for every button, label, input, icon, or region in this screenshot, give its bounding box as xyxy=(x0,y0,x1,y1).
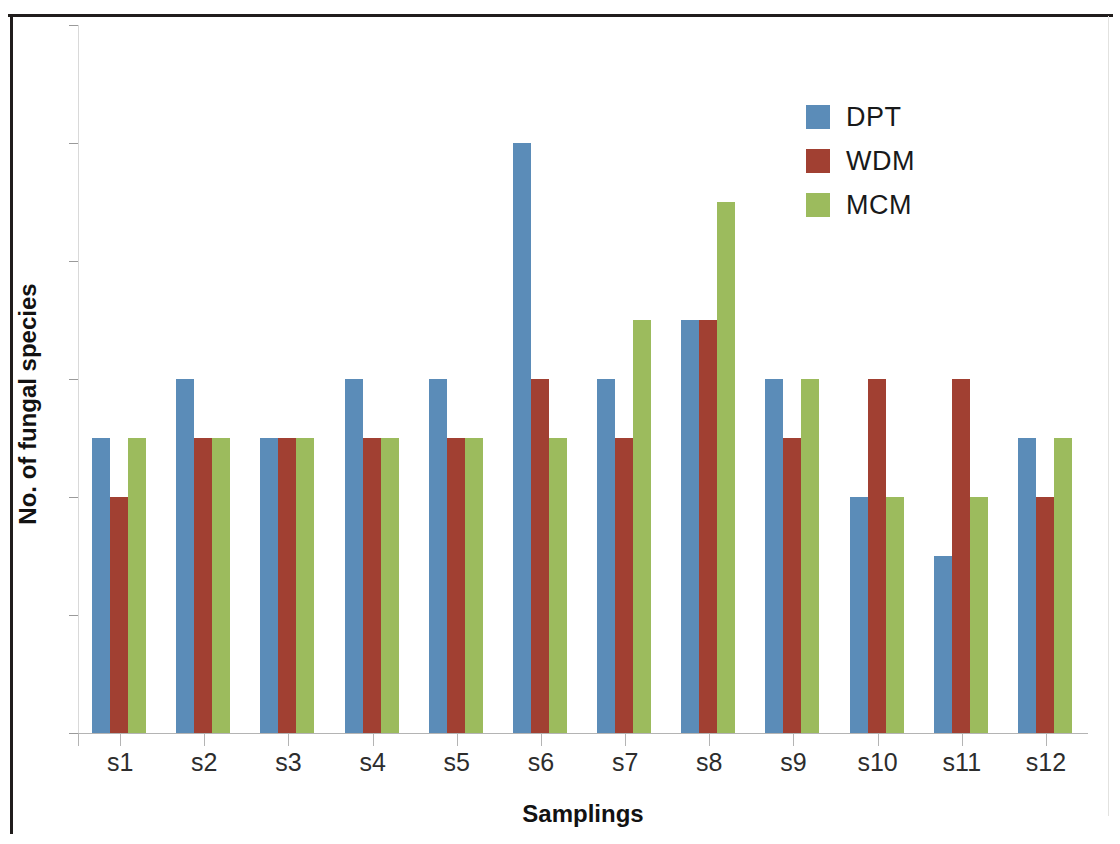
bar-wdm-s9[interactable] xyxy=(783,438,801,733)
y-axis-tick xyxy=(69,25,78,26)
x-axis-tick-labels: s1s2s3s4s5s6s7s8s9s10s11s12 xyxy=(78,748,1088,777)
bar-group xyxy=(246,25,330,733)
bar-group-inner xyxy=(681,25,737,733)
bar-dpt-s7[interactable] xyxy=(597,379,615,733)
x-axis-line xyxy=(78,733,1088,734)
y-axis-tick xyxy=(69,733,78,734)
bar-dpt-s12[interactable] xyxy=(1018,438,1036,733)
legend-swatch-icon xyxy=(806,149,830,173)
bar-dpt-s2[interactable] xyxy=(176,379,194,733)
page-frame-left-border xyxy=(10,14,13,834)
bar-dpt-s4[interactable] xyxy=(345,379,363,733)
bar-mcm-s5[interactable] xyxy=(465,438,483,733)
page-frame-top-border xyxy=(8,14,1113,17)
x-axis-tick-label: s8 xyxy=(667,748,751,777)
bar-mcm-s7[interactable] xyxy=(633,320,651,733)
x-axis-title: Samplings xyxy=(78,800,1088,828)
legend-label: WDM xyxy=(846,146,915,177)
bar-mcm-s4[interactable] xyxy=(381,438,399,733)
bar-chart-figure: No. of fungal species 121086420 s1s2s3s4… xyxy=(0,0,1120,844)
bar-group-inner xyxy=(429,25,485,733)
bar-dpt-s3[interactable] xyxy=(260,438,278,733)
bar-groups xyxy=(78,25,1088,733)
bar-wdm-s8[interactable] xyxy=(699,320,717,733)
bar-wdm-s3[interactable] xyxy=(278,438,296,733)
x-axis-tick xyxy=(373,733,374,746)
x-axis-tick-label: s9 xyxy=(751,748,835,777)
bar-group-inner xyxy=(1018,25,1074,733)
bar-group xyxy=(78,25,162,733)
bar-group-inner xyxy=(176,25,232,733)
chart-legend: DPTWDMMCM xyxy=(806,95,915,227)
x-axis-tick xyxy=(878,733,879,746)
y-axis-title: No. of fungal species xyxy=(14,144,42,664)
legend-item-dpt[interactable]: DPT xyxy=(806,95,915,139)
bar-mcm-s2[interactable] xyxy=(212,438,230,733)
page-frame-right-border xyxy=(1108,16,1109,816)
bar-group xyxy=(331,25,415,733)
y-axis-tick xyxy=(69,143,78,144)
bar-mcm-s6[interactable] xyxy=(549,438,567,733)
x-axis-tick xyxy=(78,733,79,746)
bar-wdm-s4[interactable] xyxy=(363,438,381,733)
bar-group xyxy=(415,25,499,733)
x-axis-tick xyxy=(709,733,710,746)
bar-group-inner xyxy=(513,25,569,733)
x-axis-tick-label: s12 xyxy=(1004,748,1088,777)
x-axis-tick xyxy=(204,733,205,746)
bar-wdm-s1[interactable] xyxy=(110,497,128,733)
bar-wdm-s5[interactable] xyxy=(447,438,465,733)
bar-group-inner xyxy=(345,25,401,733)
x-axis-tick-label: s6 xyxy=(499,748,583,777)
bar-group-inner xyxy=(934,25,990,733)
legend-label: MCM xyxy=(846,190,912,221)
bar-mcm-s10[interactable] xyxy=(886,497,904,733)
x-axis-tick xyxy=(457,733,458,746)
bar-mcm-s8[interactable] xyxy=(717,202,735,733)
bar-wdm-s7[interactable] xyxy=(615,438,633,733)
x-axis-tick xyxy=(793,733,794,746)
x-axis-tick-label: s10 xyxy=(836,748,920,777)
x-axis-tick-label: s4 xyxy=(331,748,415,777)
bar-wdm-s10[interactable] xyxy=(868,379,886,733)
bar-wdm-s11[interactable] xyxy=(952,379,970,733)
bar-mcm-s9[interactable] xyxy=(801,379,819,733)
bar-mcm-s12[interactable] xyxy=(1054,438,1072,733)
bar-dpt-s8[interactable] xyxy=(681,320,699,733)
bar-group xyxy=(920,25,1004,733)
legend-item-wdm[interactable]: WDM xyxy=(806,139,915,183)
bar-mcm-s1[interactable] xyxy=(128,438,146,733)
y-axis-tick xyxy=(69,261,78,262)
bar-group-inner xyxy=(260,25,316,733)
x-axis-tick-label: s5 xyxy=(415,748,499,777)
bar-dpt-s9[interactable] xyxy=(765,379,783,733)
legend-label: DPT xyxy=(846,102,902,133)
bar-wdm-s2[interactable] xyxy=(194,438,212,733)
legend-item-mcm[interactable]: MCM xyxy=(806,183,915,227)
x-axis-tick xyxy=(962,733,963,746)
bar-group xyxy=(583,25,667,733)
bar-group-inner xyxy=(597,25,653,733)
y-axis-tick xyxy=(69,497,78,498)
x-axis-tick xyxy=(120,733,121,746)
bar-group-inner xyxy=(92,25,148,733)
x-axis-tick-label: s3 xyxy=(246,748,330,777)
bar-wdm-s12[interactable] xyxy=(1036,497,1054,733)
bar-dpt-s1[interactable] xyxy=(92,438,110,733)
y-axis-tick xyxy=(69,615,78,616)
x-axis-tick xyxy=(288,733,289,746)
bar-group xyxy=(162,25,246,733)
bar-dpt-s6[interactable] xyxy=(513,143,531,733)
bar-dpt-s10[interactable] xyxy=(850,497,868,733)
bar-mcm-s11[interactable] xyxy=(970,497,988,733)
bar-mcm-s3[interactable] xyxy=(296,438,314,733)
bar-wdm-s6[interactable] xyxy=(531,379,549,733)
x-axis-tick-label: s7 xyxy=(583,748,667,777)
x-axis-tick xyxy=(1046,733,1047,746)
x-axis-tick xyxy=(541,733,542,746)
bar-dpt-s5[interactable] xyxy=(429,379,447,733)
x-axis-tick-label: s2 xyxy=(162,748,246,777)
bar-group xyxy=(499,25,583,733)
bar-dpt-s11[interactable] xyxy=(934,556,952,733)
bar-group xyxy=(667,25,751,733)
